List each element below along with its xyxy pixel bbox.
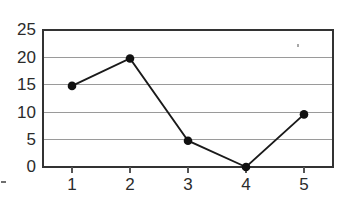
data-point-1-2: [126, 54, 135, 63]
chart-canvas: 2520151050 12345: [0, 0, 355, 201]
x-axis-label-5: 5: [299, 175, 308, 194]
x-axis-label-3: 3: [183, 175, 192, 194]
y-axis-label-0: 0: [27, 157, 36, 176]
data-point-1-4: [242, 163, 251, 172]
data-point-1-3: [184, 136, 193, 145]
x-axis-label-4: 4: [241, 175, 250, 194]
y-axis-label-20: 20: [17, 48, 36, 67]
data-point-1-1: [68, 82, 77, 91]
x-axis-label-2: 2: [125, 175, 134, 194]
y-axis-label-15: 15: [17, 75, 36, 94]
scan-artifact-speck-icon: [297, 44, 299, 47]
y-axis-label-25: 25: [17, 20, 36, 39]
x-axis-label-1: 1: [67, 175, 76, 194]
y-axis-label-5: 5: [27, 130, 36, 149]
scan-artifact-dash-icon: [1, 181, 6, 183]
y-axis-label-10: 10: [17, 103, 36, 122]
line-chart: 2520151050 12345: [0, 0, 355, 201]
data-point-1-5: [300, 110, 309, 119]
